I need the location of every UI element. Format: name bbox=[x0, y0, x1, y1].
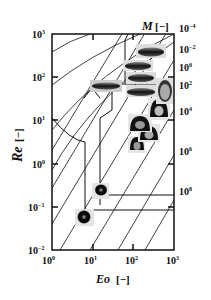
svg-text:100: 100 bbox=[42, 255, 55, 266]
svg-text:102: 102 bbox=[125, 255, 138, 266]
plot-area bbox=[52, 4, 174, 250]
svg-text:102: 102 bbox=[179, 80, 192, 91]
svg-text:10−1: 10−1 bbox=[28, 202, 44, 213]
svg-text:108: 108 bbox=[179, 186, 192, 197]
svg-text:M: M bbox=[141, 19, 153, 33]
svg-text:Eo: Eo bbox=[95, 272, 110, 286]
svg-text:[−]: [−] bbox=[116, 273, 130, 285]
x-axis-title: Eo [−] bbox=[95, 272, 130, 286]
svg-text:101: 101 bbox=[84, 255, 97, 266]
svg-text:[−]: [−] bbox=[12, 128, 24, 142]
svg-text:106: 106 bbox=[179, 146, 192, 157]
svg-text:100: 100 bbox=[32, 159, 45, 170]
svg-text:10−4: 10−4 bbox=[179, 23, 195, 34]
svg-text:100: 100 bbox=[179, 62, 192, 73]
y-axis-title: Re [−] bbox=[10, 128, 25, 163]
svg-text:104: 104 bbox=[179, 106, 192, 117]
svg-text:Re: Re bbox=[10, 146, 25, 163]
svg-text:101: 101 bbox=[32, 115, 45, 126]
svg-text:103: 103 bbox=[166, 255, 179, 266]
secondary-axis-title: M [−] bbox=[141, 19, 169, 33]
y-tick-labels: 103 102 101 100 10−1 10−2 bbox=[28, 29, 45, 256]
svg-text:103: 103 bbox=[32, 29, 45, 40]
x-tick-labels: 100 101 102 103 bbox=[42, 255, 179, 266]
svg-text:10−2: 10−2 bbox=[179, 44, 195, 55]
svg-text:102: 102 bbox=[32, 72, 45, 83]
bubble-shape-regime-chart: 100 101 102 103 103 102 101 100 10−1 10−… bbox=[0, 0, 211, 300]
m-tick-labels: 10−4 10−2 100 102 104 106 108 bbox=[179, 23, 195, 197]
svg-text:[−]: [−] bbox=[155, 20, 169, 32]
